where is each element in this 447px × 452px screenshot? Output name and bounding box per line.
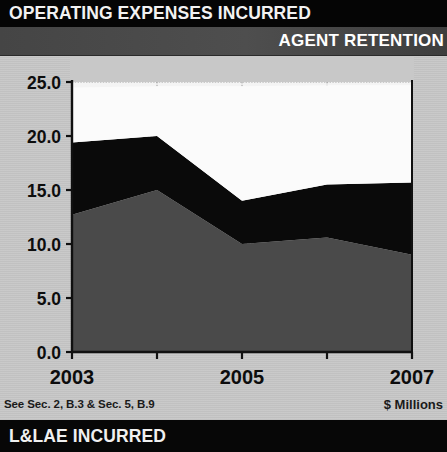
header-banner: OPERATING EXPENSES INCURRED xyxy=(0,0,447,27)
footnote-reference: See Sec. 2, B.3 & Sec. 5, B.9 xyxy=(4,398,155,410)
y-axis-tick-label: 20.0 xyxy=(27,127,61,147)
stacked-area-chart: 0.05.010.015.020.025.0200320052007 xyxy=(0,56,447,420)
y-axis-tick-label: 15.0 xyxy=(27,181,61,201)
chart-area: 0.05.010.015.020.025.0200320052007 xyxy=(0,56,447,420)
y-axis-tick-label: 0.0 xyxy=(37,343,62,363)
subtitle-label: AGENT RETENTION xyxy=(279,31,447,51)
x-axis-tick-label: 2005 xyxy=(220,366,265,388)
x-axis-tick-label: 2007 xyxy=(390,366,435,388)
page-title: OPERATING EXPENSES INCURRED xyxy=(0,3,311,24)
chart-panel: OPERATING EXPENSES INCURRED AGENT RETENT… xyxy=(0,0,447,452)
plot-top-mask xyxy=(70,56,414,82)
subheader-banner: AGENT RETENTION xyxy=(0,27,447,56)
units-label: $ Millions xyxy=(384,397,443,412)
y-axis-tick-label: 10.0 xyxy=(27,235,61,255)
x-axis-tick-label: 2003 xyxy=(50,366,95,388)
y-axis-tick-label: 5.0 xyxy=(37,289,62,309)
footer-banner: L&LAE INCURRED xyxy=(0,420,447,452)
y-axis-tick-label: 25.0 xyxy=(27,73,61,93)
footer-banner-label: L&LAE INCURRED xyxy=(0,426,166,447)
